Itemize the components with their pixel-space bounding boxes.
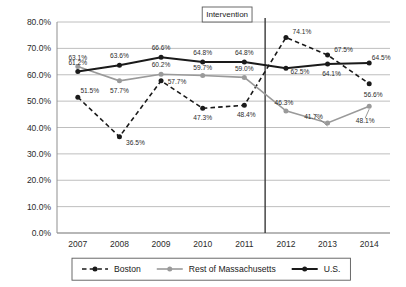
legend-swatch-marker	[167, 267, 172, 272]
data-point-label: 64.8%	[193, 49, 212, 56]
y-axis-tick-label: 20.0%	[27, 175, 52, 185]
y-axis-tick-label: 30.0%	[27, 149, 52, 159]
data-point-label: 64.5%	[372, 54, 391, 61]
data-point-label: 57.7%	[110, 87, 129, 94]
data-point-label: 59.0%	[235, 65, 254, 72]
legend-label: Rest of Massachusetts	[189, 264, 276, 274]
x-axis-tick-label: 2013	[318, 239, 337, 249]
data-point-label: 48.4%	[237, 111, 256, 118]
data-point-label: 56.6%	[364, 91, 383, 98]
data-point-marker	[159, 55, 164, 60]
intervention-label-text: Intervention	[206, 10, 248, 19]
chart-canvas: 0.0%10.0%20.0%30.0%40.0%50.0%60.0%70.0%8…	[0, 0, 406, 287]
data-point-marker	[117, 78, 122, 83]
line-chart: 0.0%10.0%20.0%30.0%40.0%50.0%60.0%70.0%8…	[0, 0, 406, 287]
legend-swatch-marker	[302, 267, 307, 272]
data-point-label: 36.5%	[126, 139, 145, 146]
y-axis-tick-labels: 0.0%10.0%20.0%30.0%40.0%50.0%60.0%70.0%8…	[27, 17, 52, 238]
intervention-annotation: Intervention	[202, 7, 252, 22]
data-point-marker	[325, 61, 330, 66]
x-axis-tick-label: 2011	[235, 239, 254, 249]
x-axis-tick-label: 2012	[276, 239, 295, 249]
x-axis-tick-label: 2010	[193, 239, 212, 249]
data-point-marker	[117, 134, 122, 139]
data-point-marker	[159, 78, 164, 83]
data-point-marker	[200, 73, 205, 78]
y-axis-tick-label: 60.0%	[27, 70, 52, 80]
y-axis-tick-label: 80.0%	[27, 17, 52, 27]
data-point-label: 63.6%	[110, 52, 129, 59]
data-point-label: 64.1%	[322, 70, 341, 77]
data-point-marker	[367, 60, 372, 65]
data-point-label: 48.1%	[356, 117, 375, 124]
data-point-marker	[283, 35, 288, 40]
data-point-label: 62.5%	[291, 68, 310, 75]
y-axis-tick-label: 10.0%	[27, 202, 52, 212]
data-point-label: 64.8%	[235, 49, 254, 56]
y-axis-tick-label: 40.0%	[27, 123, 52, 133]
data-point-marker	[159, 72, 164, 77]
data-point-marker	[75, 95, 80, 100]
x-axis-tick-label: 2014	[360, 239, 379, 249]
data-point-label: 46.3%	[275, 99, 294, 106]
data-point-marker	[283, 66, 288, 71]
data-point-marker	[242, 75, 247, 80]
y-axis-tick-label: 70.0%	[27, 43, 52, 53]
data-point-label: 61.2%	[68, 59, 87, 66]
data-point-marker	[75, 69, 80, 74]
data-point-label: 67.5%	[334, 46, 353, 53]
legend-label: Boston	[114, 264, 141, 274]
data-point-marker	[242, 103, 247, 108]
data-point-label: 51.5%	[80, 87, 99, 94]
x-axis-tick-label: 2008	[110, 239, 129, 249]
legend-swatch-marker	[93, 267, 98, 272]
legend: BostonRest of MassachusettsU.S.	[72, 258, 350, 280]
data-point-label: 60.2%	[152, 61, 171, 68]
data-point-marker	[325, 52, 330, 57]
data-point-label: 41.7%	[304, 113, 323, 120]
data-point-marker	[367, 104, 372, 109]
x-axis-tick-label: 2007	[68, 239, 87, 249]
data-point-marker	[200, 106, 205, 111]
data-point-marker	[242, 60, 247, 65]
data-point-label: 74.1%	[293, 28, 312, 35]
data-point-marker	[367, 81, 372, 86]
y-axis-tick-label: 0.0%	[32, 228, 52, 238]
data-point-label: 59.7%	[193, 64, 212, 71]
data-point-label: 66.6%	[152, 44, 171, 51]
data-point-label: 57.7%	[168, 78, 187, 85]
x-axis-tick-label: 2009	[152, 239, 171, 249]
y-axis-tick-label: 50.0%	[27, 96, 52, 106]
legend-label: U.S.	[324, 264, 341, 274]
data-point-marker	[283, 108, 288, 113]
data-point-label: 47.3%	[193, 114, 212, 121]
data-point-marker	[117, 63, 122, 68]
